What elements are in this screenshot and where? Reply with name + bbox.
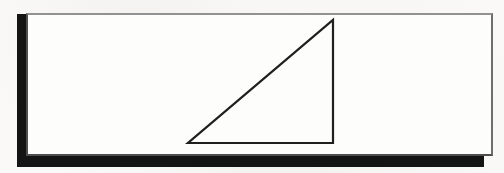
triangle-figure [0,0,504,173]
right-triangle-shape [188,20,333,143]
figure-canvas [0,0,504,173]
